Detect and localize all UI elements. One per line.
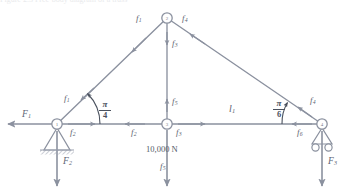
label-f2-left: f2 xyxy=(70,128,76,138)
angle-label-right: π 6 xyxy=(273,99,285,119)
label-f5-mid: f5 xyxy=(172,97,178,107)
truss-diagram-svg xyxy=(0,0,355,192)
angle-right-denominator: 6 xyxy=(273,110,285,119)
label-l1: l1 xyxy=(229,104,235,115)
arrow-f4-lower xyxy=(298,107,312,117)
joint-4-number: 4 xyxy=(318,122,326,127)
label-F3: F3 xyxy=(328,157,337,167)
label-F1: F1 xyxy=(22,110,31,120)
angle-left-denominator: 4 xyxy=(99,111,111,120)
label-f5-bottom: f5 xyxy=(160,162,166,172)
label-f4-lower: f4 xyxy=(310,96,316,106)
joint-3-number: 3 xyxy=(163,122,171,127)
label-f3-apex: f3 xyxy=(172,39,178,49)
angle-label-left: π 4 xyxy=(99,100,111,120)
truss-joints xyxy=(52,13,327,129)
label-f3-center: f3 xyxy=(176,128,182,138)
figure-canvas: Figure 2.3 Free-body diagram of a truss xyxy=(0,0,355,192)
angle-left-numerator: π xyxy=(99,100,111,109)
label-f6-right: f6 xyxy=(297,128,303,138)
label-f2-center: f2 xyxy=(131,128,137,138)
arrow-f1-upper xyxy=(132,38,146,52)
angle-arcs xyxy=(88,94,288,125)
label-f1-upper: f1 xyxy=(136,14,142,24)
member-1-2 xyxy=(57,18,167,124)
label-F2: F2 xyxy=(63,157,72,167)
label-load-10000N: 10,000 N xyxy=(146,145,178,154)
joint-1-number: 1 xyxy=(53,122,61,127)
label-f4-upper: f4 xyxy=(182,14,188,24)
arrow-f4-upper xyxy=(190,34,205,44)
joint-2-number: 2 xyxy=(163,16,171,21)
label-f1-lower: f1 xyxy=(64,94,70,104)
angle-right-numerator: π xyxy=(273,99,285,108)
external-load-arrows xyxy=(8,124,322,186)
